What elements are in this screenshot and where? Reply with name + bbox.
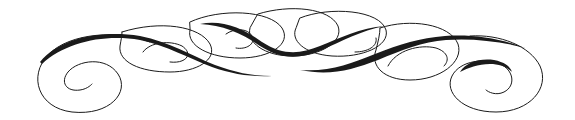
flourish-ornament-icon	[0, 0, 575, 120]
right-spiral-outer	[450, 36, 542, 112]
flourish-divider: Decorative calligraphic flourish divider	[0, 0, 575, 120]
right-spiral-thick	[460, 60, 512, 73]
left-swash-thick	[40, 34, 272, 76]
center-right-oval	[295, 11, 387, 56]
left-spiral-outer	[38, 35, 150, 113]
center-right-curl	[355, 38, 376, 52]
left-oval	[120, 26, 212, 72]
